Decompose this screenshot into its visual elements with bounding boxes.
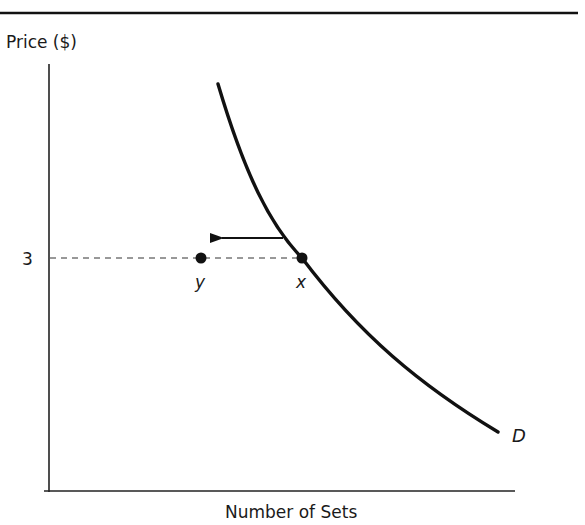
y-axis-label: Price ($) — [6, 32, 77, 52]
point-y-label: y — [194, 272, 206, 292]
x-axis-label: Number of Sets — [225, 502, 357, 522]
point-x-label: x — [295, 272, 307, 292]
price-tick-label: 3 — [22, 249, 33, 269]
point-y-marker — [196, 253, 207, 264]
curve-label-d: D — [512, 425, 526, 446]
point-x-marker — [297, 253, 308, 264]
demand-curve-figure: Price ($) 3 y x D Number of Sets — [0, 0, 585, 525]
